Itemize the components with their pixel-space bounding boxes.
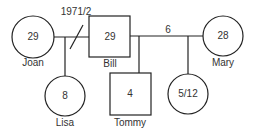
mary-name: Mary <box>203 57 243 69</box>
bill-name: Bill <box>90 58 130 70</box>
mary-age: 28 <box>213 30 233 42</box>
tommy-name: Tommy <box>110 117 150 129</box>
lisa-name: Lisa <box>45 117 85 129</box>
lisa-age: 8 <box>55 90 75 102</box>
marriage-duration-label: 6 <box>160 24 176 36</box>
baby-age: 5/12 <box>174 88 202 100</box>
joan-name: Joan <box>13 57 53 69</box>
joan-age: 29 <box>23 31 43 43</box>
tommy-age: 4 <box>120 88 140 100</box>
bill-age: 29 <box>100 31 120 43</box>
divorce-year-label: 1971/2 <box>56 6 96 18</box>
